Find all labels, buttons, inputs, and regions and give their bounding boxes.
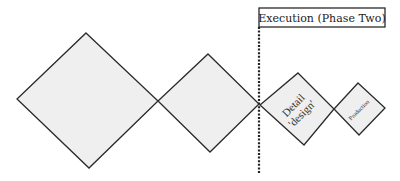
phase-box-label: Execution (Phase Two) — [258, 12, 385, 25]
stage-diamond-2 — [158, 54, 259, 152]
phase-diagram: Execution (Phase Two) Detail 'design' Pr… — [0, 0, 400, 181]
stage-diamond-1 — [17, 33, 158, 168]
